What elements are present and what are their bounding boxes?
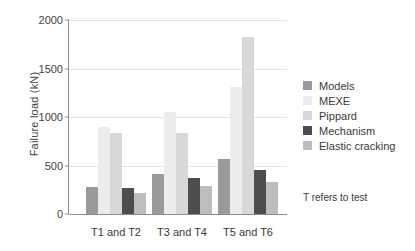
y-tick-label: 2000 [39,14,63,26]
y-tick-mark [65,117,69,118]
y-tick-mark [65,68,69,69]
legend-swatch-icon [303,96,312,105]
x-tick-label: T1 and T2 [91,226,141,238]
y-tick-mark [65,214,69,215]
y-tick-label: 1500 [39,63,63,75]
bar-mechanism [188,178,200,214]
y-tick-label: 500 [45,160,63,172]
bar-models [152,174,164,214]
bar-mechanism [122,188,134,214]
bar-chart-figure: Failure load (kN) 0500100015002000T1 and… [0,0,415,251]
legend-swatch-icon [303,111,312,120]
chart-legend: ModelsMEXEPippardMechanismElastic cracki… [303,78,395,153]
legend-item-models: Models [303,78,395,93]
bar-elastic-cracking [200,186,212,214]
legend-item-pippard: Pippard [303,108,395,123]
bar-mexe [98,127,110,214]
bar-pippard [110,133,122,214]
bar-mexe [230,87,242,214]
x-axis-line [69,214,287,215]
bar-elastic-cracking [266,182,278,214]
bar-models [86,187,98,214]
bar-pippard [176,133,188,214]
legend-item-elastic-cracking: Elastic cracking [303,138,395,153]
x-tick-label: T5 and T6 [223,226,273,238]
y-tick-label: 0 [57,208,63,220]
y-tick-label: 1000 [39,111,63,123]
chart-annotation-note: T refers to test [303,192,367,203]
y-tick-mark [65,20,69,21]
legend-item-mechanism: Mechanism [303,123,395,138]
legend-label: Pippard [319,110,357,122]
legend-swatch-icon [303,141,312,150]
bar-group: T5 and T6 [215,20,281,214]
bar-models [218,159,230,214]
bar-group: T1 and T2 [83,20,149,214]
bar-mexe [164,112,176,214]
bar-mechanism [254,170,266,214]
plot-area: 0500100015002000T1 and T2T3 and T4T5 and… [68,20,287,214]
bar-group: T3 and T4 [149,20,215,214]
legend-swatch-icon [303,126,312,135]
legend-label: Mechanism [319,125,375,137]
x-tick-label: T3 and T4 [157,226,207,238]
bar-elastic-cracking [134,193,146,214]
bar-pippard [242,37,254,214]
y-tick-mark [65,165,69,166]
legend-swatch-icon [303,81,312,90]
legend-label: Models [319,80,354,92]
legend-label: MEXE [319,95,350,107]
legend-item-mexe: MEXE [303,93,395,108]
legend-label: Elastic cracking [319,140,395,152]
